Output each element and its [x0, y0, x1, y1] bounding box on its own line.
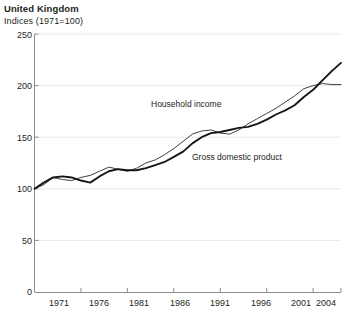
chart-container: United Kingdom Indices (1971=100) 250 20…: [0, 0, 350, 316]
series-line-household-income: [35, 63, 342, 189]
x-tick-marks: [35, 34, 342, 292]
series-line-gross-domestic-product: [35, 84, 342, 189]
plot-area: [0, 0, 350, 316]
